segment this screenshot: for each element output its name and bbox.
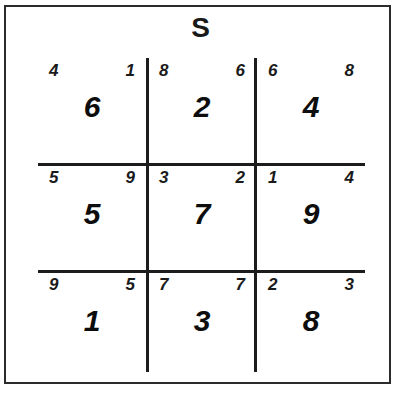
grid-cell-top-right[interactable]: 6 8 4 — [257, 58, 365, 163]
corner-note-right: 1 — [126, 62, 135, 79]
grid-cell-bottom-center[interactable]: 7 7 3 — [148, 272, 256, 377]
cell-value: 5 — [38, 199, 146, 229]
corner-notes: 9 5 — [38, 276, 146, 293]
corner-note-left: 2 — [268, 276, 277, 293]
corner-note-left: 4 — [49, 62, 58, 79]
corner-note-left: 8 — [159, 62, 168, 79]
corner-notes: 3 2 — [148, 169, 256, 186]
corner-note-right: 6 — [236, 62, 245, 79]
cell-value: 6 — [38, 92, 146, 122]
corner-notes: 2 3 — [257, 276, 365, 293]
cell-value: 8 — [257, 306, 365, 336]
cell-value: 3 — [148, 306, 256, 336]
corner-note-right: 3 — [345, 276, 354, 293]
grid-cell-middle-left[interactable]: 5 9 5 — [38, 165, 146, 270]
corner-note-right: 4 — [345, 169, 354, 186]
cell-value: 1 — [38, 306, 146, 336]
corner-note-right: 2 — [236, 169, 245, 186]
corner-notes: 7 7 — [148, 276, 256, 293]
puzzle-grid: 4 1 6 8 6 2 6 8 4 5 9 5 — [38, 58, 365, 372]
corner-note-left: 5 — [49, 169, 58, 186]
puzzle-page: S 4 1 6 8 6 2 6 8 4 — [0, 0, 401, 394]
corner-notes: 8 6 — [148, 62, 256, 79]
cell-value: 9 — [257, 199, 365, 229]
corner-note-left: 6 — [268, 62, 277, 79]
corner-note-right: 8 — [345, 62, 354, 79]
grid-cell-middle-right[interactable]: 1 4 9 — [257, 165, 365, 270]
grid-cell-top-left[interactable]: 4 1 6 — [38, 58, 146, 163]
corner-note-right: 7 — [236, 276, 245, 293]
corner-note-right: 9 — [126, 169, 135, 186]
grid-cell-bottom-right[interactable]: 2 3 8 — [257, 272, 365, 377]
corner-notes: 5 9 — [38, 169, 146, 186]
grid-cell-bottom-left[interactable]: 9 5 1 — [38, 272, 146, 377]
corner-note-right: 5 — [126, 276, 135, 293]
corner-note-left: 1 — [268, 169, 277, 186]
cell-value: 4 — [257, 92, 365, 122]
cell-value: 7 — [148, 199, 256, 229]
corner-note-left: 7 — [159, 276, 168, 293]
corner-notes: 6 8 — [257, 62, 365, 79]
corner-note-left: 3 — [159, 169, 168, 186]
grid-cell-middle-center[interactable]: 3 2 7 — [148, 165, 256, 270]
corner-notes: 4 1 — [38, 62, 146, 79]
page-title: S — [0, 14, 401, 42]
grid-cell-top-center[interactable]: 8 6 2 — [148, 58, 256, 163]
corner-note-left: 9 — [49, 276, 58, 293]
corner-notes: 1 4 — [257, 169, 365, 186]
cell-value: 2 — [148, 92, 256, 122]
